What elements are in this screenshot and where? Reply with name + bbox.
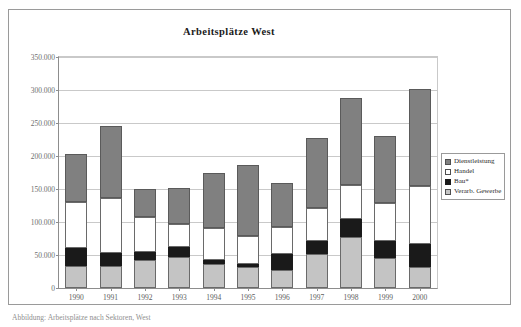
bar-segment-dienstleistung[interactable] (271, 183, 293, 227)
x-axis-tick-label: 1992 (137, 293, 152, 302)
y-tick-mark (56, 255, 59, 256)
y-tick-mark (56, 57, 59, 58)
bar-segment-verarb-gewerbe[interactable] (306, 254, 328, 288)
legend-item[interactable]: Dienstleistung (445, 157, 502, 166)
y-tick-mark (56, 189, 59, 190)
bar-1995[interactable] (237, 165, 259, 288)
x-axis-tick-label: 1993 (172, 293, 187, 302)
x-tick-mark (111, 288, 112, 291)
bar-segment-dienstleistung[interactable] (65, 154, 87, 202)
bar-segment-dienstleistung[interactable] (374, 136, 396, 203)
x-tick-mark (214, 288, 215, 291)
bar-1992[interactable] (134, 189, 156, 288)
bar-segment-verarb-gewerbe[interactable] (203, 264, 225, 288)
y-tick-mark (56, 90, 59, 91)
bar-2000[interactable] (409, 89, 431, 288)
bar-segment-verarb-gewerbe[interactable] (65, 266, 87, 288)
bar-segment-bau[interactable] (271, 254, 293, 270)
y-axis-tick-label: 300.000 (31, 86, 55, 95)
bar-segment-handel[interactable] (237, 236, 259, 264)
legend-item[interactable]: Bau* (445, 177, 502, 186)
y-gridline (59, 123, 437, 124)
bar-segment-bau[interactable] (134, 252, 156, 261)
x-axis-tick-label: 2000 (412, 293, 427, 302)
bar-segment-bau[interactable] (168, 247, 190, 257)
bar-segment-bau[interactable] (100, 253, 122, 266)
bar-segment-verarb-gewerbe[interactable] (134, 260, 156, 288)
bar-segment-verarb-gewerbe[interactable] (340, 237, 362, 288)
y-tick-mark (56, 222, 59, 223)
bar-segment-verarb-gewerbe[interactable] (100, 266, 122, 288)
y-axis-tick-label: 350.000 (31, 53, 55, 62)
legend-item-label: Verarb. Gewerbe (454, 187, 501, 196)
legend-swatch-icon (445, 189, 451, 195)
y-axis-tick-label: 250.000 (31, 119, 55, 128)
bar-segment-dienstleistung[interactable] (237, 165, 259, 236)
plot-area: 350.000300.000250.000200.000150.000100.0… (58, 56, 438, 289)
bar-1996[interactable] (271, 183, 293, 288)
figure-frame: Arbeitsplätze West 350.000300.000250.000… (8, 9, 511, 305)
legend-swatch-icon (445, 159, 451, 165)
bar-1990[interactable] (65, 154, 87, 288)
x-axis-tick-label: 1997 (309, 293, 324, 302)
bar-segment-bau[interactable] (340, 219, 362, 237)
bar-segment-bau[interactable] (306, 241, 328, 254)
bar-segment-verarb-gewerbe[interactable] (168, 257, 190, 288)
bar-segment-verarb-gewerbe[interactable] (271, 270, 293, 288)
bar-1999[interactable] (374, 136, 396, 288)
bar-segment-handel[interactable] (203, 228, 225, 260)
x-axis-tick-label: 1996 (275, 293, 290, 302)
y-axis-tick-label: 0 (51, 284, 55, 293)
bar-1994[interactable] (203, 173, 225, 288)
bar-segment-dienstleistung[interactable] (306, 138, 328, 207)
y-tick-mark (56, 288, 59, 289)
x-axis-tick-label: 1994 (206, 293, 221, 302)
bar-segment-dienstleistung[interactable] (100, 126, 122, 197)
y-tick-mark (56, 123, 59, 124)
legend-item-label: Bau* (454, 177, 469, 186)
bar-segment-bau[interactable] (409, 244, 431, 266)
bar-segment-bau[interactable] (374, 241, 396, 258)
bar-segment-handel[interactable] (271, 227, 293, 254)
bar-segment-handel[interactable] (100, 198, 122, 253)
bar-segment-handel[interactable] (168, 224, 190, 247)
bar-segment-verarb-gewerbe[interactable] (374, 258, 396, 288)
bar-1998[interactable] (340, 98, 362, 288)
y-gridline (59, 57, 437, 58)
bar-segment-handel[interactable] (374, 203, 396, 241)
bar-segment-dienstleistung[interactable] (168, 188, 190, 224)
bar-1991[interactable] (100, 126, 122, 288)
figure-caption: Abbildung: Arbeitsplätze nach Sektoren, … (12, 313, 151, 325)
bar-1997[interactable] (306, 138, 328, 288)
chart-title: Arbeitsplätze West (9, 26, 449, 37)
bar-segment-handel[interactable] (65, 202, 87, 248)
legend-swatch-icon (445, 169, 451, 175)
bar-segment-handel[interactable] (340, 185, 362, 219)
x-tick-mark (248, 288, 249, 291)
bar-segment-handel[interactable] (409, 186, 431, 245)
y-tick-mark (56, 156, 59, 157)
y-axis-tick-label: 200.000 (31, 152, 55, 161)
x-tick-mark (76, 288, 77, 291)
x-axis-tick-label: 1991 (103, 293, 118, 302)
legend-item-label: Dienstleistung (454, 157, 494, 166)
bar-segment-handel[interactable] (306, 208, 328, 241)
x-tick-mark (351, 288, 352, 291)
legend-item[interactable]: Handel (445, 167, 502, 176)
y-axis-tick-label: 50.000 (34, 251, 55, 260)
bar-segment-handel[interactable] (134, 217, 156, 252)
legend-item[interactable]: Verarb. Gewerbe (445, 187, 502, 196)
bar-segment-verarb-gewerbe[interactable] (409, 267, 431, 288)
chart-legend: DienstleistungHandelBau*Verarb. Gewerbe (441, 153, 505, 200)
x-tick-mark (385, 288, 386, 291)
bar-segment-dienstleistung[interactable] (409, 89, 431, 186)
bar-segment-dienstleistung[interactable] (203, 173, 225, 228)
bar-1993[interactable] (168, 188, 190, 288)
y-axis-tick-label: 150.000 (31, 185, 55, 194)
x-axis-tick-label: 1995 (241, 293, 256, 302)
bar-segment-bau[interactable] (65, 248, 87, 266)
bar-segment-verarb-gewerbe[interactable] (237, 267, 259, 288)
bar-segment-dienstleistung[interactable] (134, 189, 156, 217)
bar-segment-dienstleistung[interactable] (340, 98, 362, 185)
legend-item-label: Handel (454, 167, 474, 176)
